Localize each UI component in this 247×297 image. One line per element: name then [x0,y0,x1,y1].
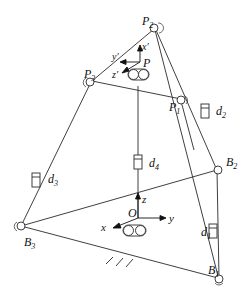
label-d2: d2 [216,104,226,120]
label-origin-p: P [142,56,151,70]
ground-hatch [116,258,123,266]
joint-p1 [177,96,185,104]
label-z-prime: z′ [111,69,119,80]
label-y-prime: y′ [111,51,119,62]
label-b3: B3 [24,235,35,251]
diagram-svg: P2 P3 P1 B2 B3 B1 d4 d3 d2 d1 P x′ y′ z′… [0,0,247,297]
base-edge-b3-b1 [21,226,218,278]
label-d3: d3 [48,172,58,188]
label-origin-o: O [128,206,137,220]
joint-b3 [17,222,25,230]
label-y: y [168,212,174,224]
platform-edge-p3-p1 [92,81,181,99]
ground-hatch [126,259,133,267]
leg-d2 [156,30,216,168]
joint-arc [14,222,17,231]
actuator-d3 [32,173,40,187]
joint-arc [158,23,164,33]
ground-hatch [106,257,113,264]
actuator-d2 [201,104,209,118]
label-x-prime: x′ [141,41,149,52]
joint-b2 [214,166,222,174]
mechanism-diagram: P2 P3 P1 B2 B3 B1 d4 d3 d2 d1 P x′ y′ z′… [0,0,247,297]
label-z: z [141,193,147,205]
label-x: x [100,221,106,233]
leg-p1-lower [181,101,194,150]
label-b2: B2 [226,155,237,171]
label-p2: P2 [141,14,153,30]
label-d4: d4 [149,156,159,172]
leg-d3 [22,84,90,224]
label-b1: B1 [208,263,219,279]
label-p3: P3 [83,67,95,83]
actuator-d4 [134,155,142,169]
